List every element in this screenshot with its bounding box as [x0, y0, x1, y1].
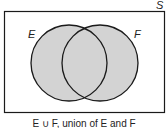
diagram-caption: E ∪ F, union of E and F	[32, 118, 135, 128]
union-shading	[31, 25, 138, 101]
universe-label: S	[156, 0, 164, 11]
set-e-label: E	[28, 28, 36, 40]
venn-diagram: S E F E ∪ F, union of E and F	[0, 0, 167, 128]
